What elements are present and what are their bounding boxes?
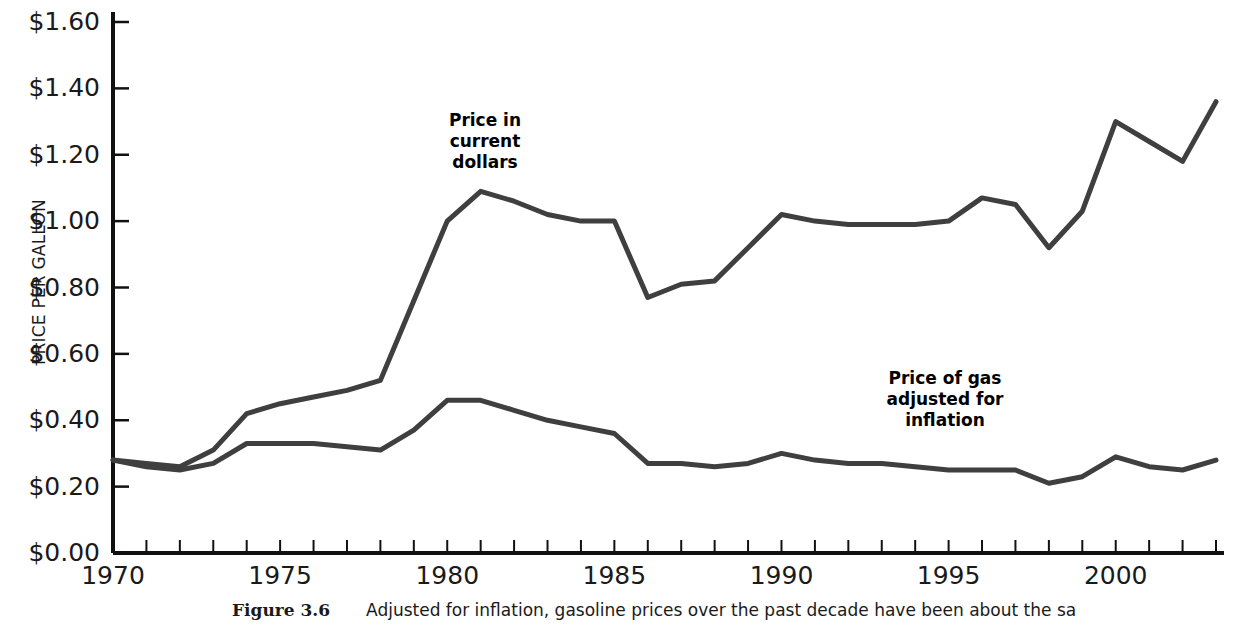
figure-caption: Figure 3.6 Adjusted for inflation, gasol…: [0, 600, 1240, 634]
y-axis-tick-label: $0.40: [8, 407, 100, 432]
y-axis-tick-label: $0.80: [8, 275, 100, 300]
y-axis-tick-label: $1.60: [8, 9, 100, 34]
chart-plot-svg: [0, 0, 1240, 590]
x-axis-tick-label: 1975: [220, 563, 340, 588]
figure-3-6: PRICE PER GALLON Price in current dollar…: [0, 0, 1240, 634]
figure-caption-text: Adjusted for inflation, gasoline prices …: [366, 600, 1076, 620]
x-axis-tick-label: 1985: [554, 563, 674, 588]
x-axis-tick-label: 1990: [721, 563, 841, 588]
x-axis-tick-label: 1970: [53, 563, 173, 588]
x-axis-tick-label: 1980: [387, 563, 507, 588]
y-axis-tick-label: $0.60: [8, 341, 100, 366]
y-axis-tick-label: $1.00: [8, 208, 100, 233]
figure-caption-label: Figure 3.6: [232, 600, 330, 620]
y-axis-tick-label: $0.20: [8, 474, 100, 499]
x-axis-tick-label: 1995: [889, 563, 1009, 588]
y-axis-tick-label: $1.40: [8, 75, 100, 100]
line-chart: PRICE PER GALLON Price in current dollar…: [0, 0, 1240, 590]
series-annotation-current-dollars: Price in current dollars: [405, 110, 565, 173]
x-axis-tick-label: 2000: [1056, 563, 1176, 588]
series-annotation-inflation-adjusted: Price of gas adjusted for inflation: [830, 368, 1060, 431]
y-axis-tick-label: $1.20: [8, 142, 100, 167]
